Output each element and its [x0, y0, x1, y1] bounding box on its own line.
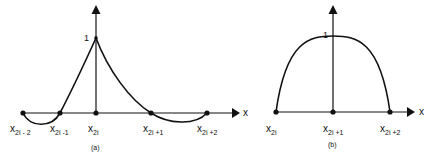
- node-label-a-4: x2i +1: [143, 124, 163, 138]
- one-label-b: 1: [323, 30, 328, 40]
- node-a-3: [93, 110, 98, 115]
- node-a-5: [204, 110, 209, 115]
- peak-a: [94, 36, 98, 40]
- node-b-2: [330, 109, 335, 114]
- x-axis-arrow-a: [232, 108, 240, 118]
- caption-b: (b): [328, 141, 337, 148]
- node-label-b-1: x2i: [266, 124, 276, 138]
- node-label-b-2: x2i +1: [323, 124, 343, 138]
- node-label-b-3: x2i +2: [380, 124, 400, 138]
- y-axis-arrow-a: [92, 5, 101, 14]
- node-a-4: [148, 110, 153, 115]
- x-axis-label-a: x: [243, 108, 248, 118]
- node-a-2: [57, 110, 62, 115]
- figure-a-plot: [0, 0, 436, 163]
- one-label-a: 1: [84, 33, 89, 43]
- node-b-3: [387, 109, 392, 114]
- node-label-a-3: x2i: [88, 124, 98, 138]
- x-axis-label-b: x: [419, 107, 424, 117]
- node-b-1: [273, 109, 278, 114]
- node-label-a-2: x2i -1: [50, 124, 69, 138]
- caption-a: (a): [91, 144, 100, 151]
- node-a-1: [20, 110, 25, 115]
- x-axis-arrow-b: [407, 107, 415, 117]
- node-label-a-5: x2i +2: [197, 124, 217, 138]
- node-label-a-1: x2i - 2: [10, 124, 31, 138]
- y-axis-arrow-b: [329, 5, 338, 14]
- basis-curve-a: [23, 38, 207, 124]
